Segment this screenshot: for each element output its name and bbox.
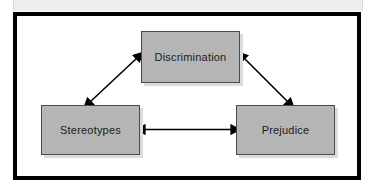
node-stereotypes-label: Stereotypes — [60, 124, 121, 136]
figure-root: Discrimination Stereotypes Prejudice — [0, 0, 371, 187]
node-prejudice: Prejudice — [236, 105, 335, 155]
node-discrimination: Discrimination — [141, 31, 240, 83]
diagram-canvas: Discrimination Stereotypes Prejudice — [0, 0, 371, 187]
arrow-stereotypes-discrimination — [90, 58, 137, 102]
arrow-connector-layer — [0, 0, 371, 187]
arrow-discrimination-prejudice — [244, 58, 288, 102]
node-discrimination-label: Discrimination — [155, 51, 227, 63]
node-stereotypes: Stereotypes — [41, 105, 140, 155]
node-prejudice-label: Prejudice — [262, 124, 310, 136]
